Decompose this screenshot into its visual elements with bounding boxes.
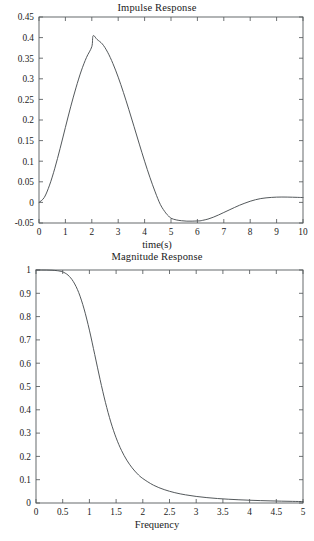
x-tick-label: 0 (34, 507, 39, 517)
y-tick-label: 0.1 (19, 475, 31, 485)
x-tick-label: 7 (221, 227, 226, 237)
y-tick-label: 0 (26, 498, 31, 508)
x-tick-label: 10 (298, 227, 308, 237)
x-tick-label: 2 (89, 227, 94, 237)
y-tick-label: 0.5 (19, 382, 31, 392)
y-tick-label: 0.4 (19, 405, 31, 415)
x-tick-label: 3 (116, 227, 121, 237)
y-tick-label: 0.05 (18, 177, 35, 187)
x-tick-label: 9 (274, 227, 279, 237)
magnitude-x-tick-group: 00.511.522.533.544.55 (34, 270, 306, 517)
y-tick-label: 0 (29, 198, 34, 208)
magnitude-x-axis-label: Frequency (0, 519, 314, 530)
x-tick-label: 1.5 (110, 507, 122, 517)
y-tick-label: 0.2 (19, 452, 31, 462)
magnitude-response-figure: Magnitude Response 00.511.522.533.544.55… (0, 249, 314, 541)
y-tick-label: -0.05 (15, 218, 35, 228)
y-tick-label: 0.9 (19, 289, 31, 299)
x-tick-label: 3 (194, 507, 199, 517)
x-tick-label: 5 (169, 227, 174, 237)
y-tick-label: 1 (26, 265, 31, 275)
magnitude-response-plot: 00.511.522.533.544.55 00.10.20.30.40.50.… (0, 249, 314, 519)
x-tick-label: 6 (195, 227, 200, 237)
x-tick-label: 4 (247, 507, 252, 517)
y-tick-label: 0.15 (18, 136, 35, 146)
y-tick-label: 0.8 (19, 312, 31, 322)
x-tick-label: 4.5 (270, 507, 282, 517)
magnitude-axis-frame (36, 270, 303, 503)
impulse-axis-frame (39, 17, 303, 223)
impulse-y-tick-group: -0.0500.050.10.150.20.250.30.350.40.45 (15, 12, 303, 228)
x-tick-label: 5 (301, 507, 306, 517)
impulse-response-plot: 012345678910 -0.0500.050.10.150.20.250.3… (0, 0, 314, 240)
y-tick-label: 0.7 (19, 335, 31, 345)
x-tick-label: 4 (142, 227, 147, 237)
x-tick-label: 0 (37, 227, 42, 237)
x-tick-label: 2 (140, 507, 145, 517)
x-tick-label: 1 (87, 507, 92, 517)
magnitude-response-curve (36, 270, 303, 502)
y-tick-label: 0.4 (22, 33, 34, 43)
x-tick-label: 3.5 (217, 507, 229, 517)
magnitude-y-tick-group: 00.10.20.30.40.50.60.70.80.91 (19, 265, 303, 508)
y-tick-label: 0.35 (18, 54, 35, 64)
x-tick-label: 2.5 (164, 507, 176, 517)
y-tick-label: 0.25 (18, 95, 35, 105)
y-tick-label: 0.6 (19, 359, 31, 369)
x-tick-label: 8 (248, 227, 253, 237)
impulse-response-figure: Impulse Response 012345678910 -0.0500.05… (0, 0, 314, 262)
y-tick-label: 0.2 (22, 115, 34, 125)
y-tick-label: 0.1 (22, 157, 34, 167)
y-tick-label: 0.45 (18, 12, 35, 22)
y-tick-label: 0.3 (22, 74, 34, 84)
impulse-x-tick-group: 012345678910 (37, 17, 308, 237)
x-tick-label: 0.5 (57, 507, 69, 517)
y-tick-label: 0.3 (19, 428, 31, 438)
impulse-response-curve (39, 36, 303, 222)
x-tick-label: 1 (63, 227, 68, 237)
